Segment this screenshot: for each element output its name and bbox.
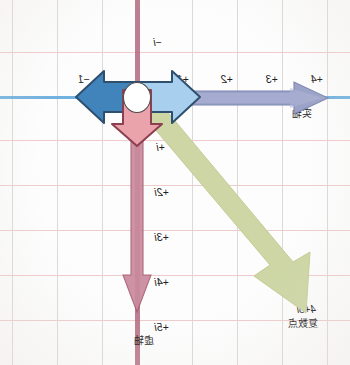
imaginary-axis-label: 虚轴	[134, 335, 154, 347]
mirrored-figure-group: +1 +2 +3 +4 −1 −i +i +2i +3i +4i +5i 实轴 …	[0, 0, 350, 365]
origin-marker	[123, 82, 151, 113]
gridline-vertical	[12, 0, 13, 365]
gridline-vertical	[57, 0, 58, 365]
figure-canvas: +1 +2 +3 +4 −1 −i +i +2i +3i +4i +5i 实轴 …	[0, 0, 350, 365]
tick-label-imag-minus-i: −i	[153, 36, 162, 48]
gridline-horizontal	[0, 52, 350, 53]
gridline-vertical	[102, 0, 103, 365]
